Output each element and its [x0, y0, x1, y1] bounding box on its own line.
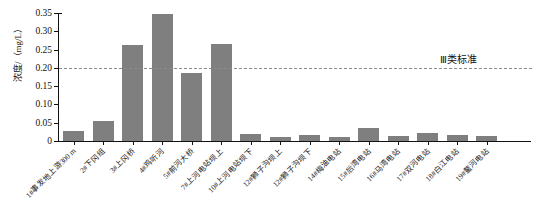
- y-tick-label: 0.10: [35, 99, 52, 109]
- x-tick-mark: [221, 142, 222, 145]
- x-tick-mark: [369, 142, 370, 145]
- x-tick-mark: [280, 142, 281, 145]
- y-tick-label: 0.30: [35, 26, 52, 36]
- bar: [122, 45, 143, 141]
- x-tick-mark: [428, 142, 429, 145]
- y-tick-label: 0.35: [35, 8, 52, 18]
- x-tick-mark: [192, 142, 193, 145]
- y-tick-mark: [54, 13, 58, 14]
- x-tick-mark: [487, 142, 488, 145]
- x-tick-label: 3#上冈桥: [108, 147, 136, 175]
- bar: [211, 44, 232, 141]
- plot-area: [59, 13, 531, 141]
- x-tick-mark: [103, 142, 104, 145]
- class-iii-standard-label: Ⅲ类标准: [440, 51, 477, 66]
- y-tick-label: 0.25: [35, 45, 52, 55]
- y-tick-mark: [54, 31, 58, 32]
- x-tick-mark: [162, 142, 163, 145]
- y-tick-mark: [54, 86, 58, 87]
- bar: [329, 137, 350, 141]
- y-axis-tick-labels: 00.050.100.150.200.250.300.35: [0, 0, 52, 219]
- y-tick-mark: [54, 50, 58, 51]
- y-tick-label: 0.15: [35, 81, 52, 91]
- x-tick-mark: [310, 142, 311, 145]
- x-tick-label: 4#鸡听河: [138, 147, 166, 175]
- bar: [240, 134, 261, 141]
- x-tick-mark: [398, 142, 399, 145]
- x-tick-mark: [133, 142, 134, 145]
- bar: [63, 131, 84, 141]
- x-axis-line: [58, 141, 531, 142]
- y-tick-label: 0.05: [35, 118, 52, 128]
- x-tick-label: 2#下冈组: [79, 147, 107, 175]
- bar: [270, 137, 291, 141]
- bar: [93, 121, 114, 141]
- bar: [417, 133, 438, 141]
- bar: [476, 136, 497, 141]
- x-tick-mark: [339, 142, 340, 145]
- bar: [447, 135, 468, 141]
- bar: [152, 14, 173, 141]
- class-iii-standard-line: [59, 68, 532, 69]
- x-tick-mark: [457, 142, 458, 145]
- x-tick-mark: [251, 142, 252, 145]
- bar-chart-figure: 浓度/（mg/L） 00.050.100.150.200.250.300.35 …: [0, 0, 535, 219]
- x-tick-mark: [74, 142, 75, 145]
- y-tick-label: 0: [47, 136, 52, 146]
- bar: [299, 135, 320, 141]
- y-tick-mark: [54, 68, 58, 69]
- bar: [358, 128, 379, 141]
- y-tick-label: 0.20: [35, 63, 52, 73]
- y-tick-mark: [54, 104, 58, 105]
- y-tick-mark: [54, 141, 58, 142]
- y-tick-mark: [54, 123, 58, 124]
- bar: [388, 136, 409, 141]
- bar: [181, 73, 202, 141]
